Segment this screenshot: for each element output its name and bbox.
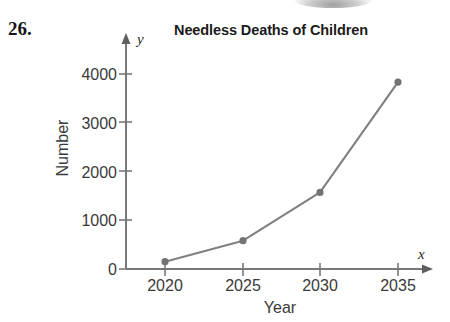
- data-point-2030: [316, 189, 323, 196]
- data-point-markers: [161, 79, 401, 266]
- data-point-2020: [161, 258, 168, 265]
- x-axis-arrowhead: [422, 265, 433, 274]
- chart-figure: 26. Needless Deaths of Children Number y…: [0, 0, 450, 322]
- data-line-series-1: [165, 82, 398, 262]
- data-point-2025: [239, 237, 246, 244]
- y-axis-arrowhead: [122, 33, 131, 44]
- data-point-2035: [394, 79, 401, 86]
- plot-area: [0, 0, 450, 322]
